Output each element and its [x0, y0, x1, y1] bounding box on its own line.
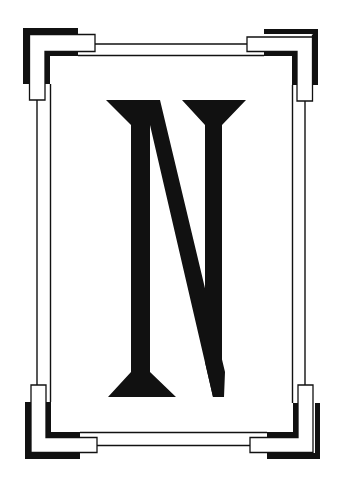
corner-bottom-left: [25, 385, 97, 459]
frame-artwork: [0, 0, 337, 479]
corner-top-left: [23, 28, 95, 100]
corner-bottom-right: [250, 385, 320, 459]
border-lines: [37, 44, 305, 446]
corner-top-right: [247, 29, 318, 101]
ornamental-letter-frame: N: [0, 0, 337, 479]
letter-n-glyph: [106, 100, 246, 397]
